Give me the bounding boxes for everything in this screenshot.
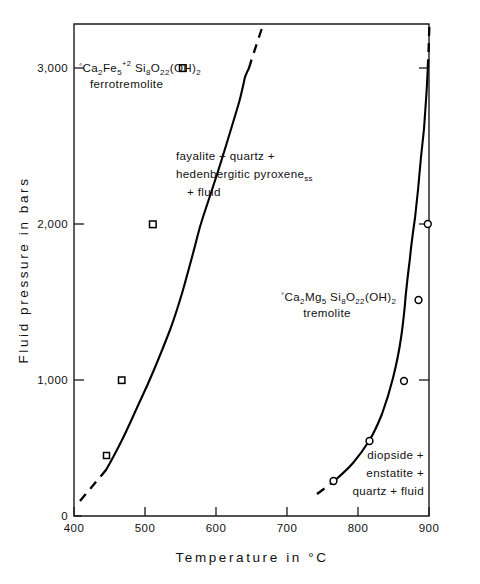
annotation-right-assemblage: diopside + enstatite + quartz + fluid — [352, 448, 424, 497]
y-tick-labels: 0 1,000 2,000 3,000 — [37, 62, 68, 522]
curve-ferrotremolite-solid — [106, 68, 249, 470]
left-assemblage-line3: + fluid — [187, 185, 221, 198]
x-axis-title: Temperature in °C — [175, 550, 328, 565]
left-assemblage-line2-subscript: ss — [304, 174, 313, 183]
ferrotremolite-formula: °Ca2Fe5+2 Si8O22(OH)2 — [79, 59, 201, 77]
phase-diagram-figure: 400 500 600 700 800 900 0 1,000 2,000 3,… — [0, 0, 480, 584]
annotation-tremolite: °Ca2Mg5 Si8O22(OH)2 tremolite — [281, 290, 396, 319]
x-tick-label-600: 600 — [206, 522, 226, 534]
data-point-ferrotremolite-500bar — [104, 453, 110, 459]
right-assemblage-line3: quartz + fluid — [352, 484, 424, 497]
curve-tremolite-dashed-upper — [428, 25, 430, 68]
plot-frame — [74, 24, 429, 516]
x-tick-label-700: 700 — [277, 522, 297, 534]
curve-ferrotremolite — [80, 25, 263, 501]
x-axis-ticks — [74, 507, 429, 516]
y-tick-label-0: 0 — [61, 510, 68, 522]
curve-tremolite — [317, 25, 431, 494]
chart-canvas: 400 500 600 700 800 900 0 1,000 2,000 3,… — [0, 0, 480, 584]
data-point-tremolite-1000bar — [401, 378, 408, 385]
ferrotremolite-name: ferrotremolite — [90, 77, 163, 90]
left-assemblage-line2: hedenbergitic pyroxeness — [176, 167, 313, 183]
y-axis-title: Fluid pressure in bars — [16, 176, 31, 363]
x-tick-label-500: 500 — [135, 522, 155, 534]
curve-tremolite-solid — [333, 68, 428, 482]
x-tick-label-400: 400 — [64, 522, 84, 534]
data-point-tremolite-340bar — [330, 478, 337, 485]
left-assemblage-line2-main: hedenbergitic pyroxene — [176, 167, 304, 180]
x-tick-label-800: 800 — [348, 522, 368, 534]
data-point-ferrotremolite-1000bar — [119, 377, 125, 383]
x-tick-label-900: 900 — [419, 522, 439, 534]
tremolite-formula: °Ca2Mg5 Si8O22(OH)2 — [281, 290, 396, 306]
x-tick-labels: 400 500 600 700 800 900 — [64, 522, 439, 534]
curve-ferrotremolite-dashed-upper — [249, 25, 263, 68]
data-point-tremolite-610bar — [366, 438, 373, 445]
right-assemblage-line1: diopside + — [367, 448, 424, 461]
y-tick-label-1000: 1,000 — [37, 374, 68, 386]
y-tick-label-3000: 3,000 — [37, 62, 68, 74]
data-point-tremolite-2000bar — [424, 221, 431, 228]
curve-ferrotremolite-dashed-lower — [80, 470, 106, 501]
annotation-left-assemblage: fayalite + quartz + hedenbergitic pyroxe… — [176, 149, 313, 198]
y-tick-label-2000: 2,000 — [37, 218, 68, 230]
data-point-ferrotremolite-2000bar — [150, 221, 157, 228]
annotation-ferrotremolite: °Ca2Fe5+2 Si8O22(OH)2 ferrotremolite — [79, 59, 201, 90]
tremolite-name: tremolite — [303, 306, 351, 319]
data-point-tremolite-1520bar — [415, 297, 422, 304]
right-assemblage-line2: enstatite + — [366, 466, 424, 479]
left-assemblage-line1: fayalite + quartz + — [176, 149, 275, 162]
